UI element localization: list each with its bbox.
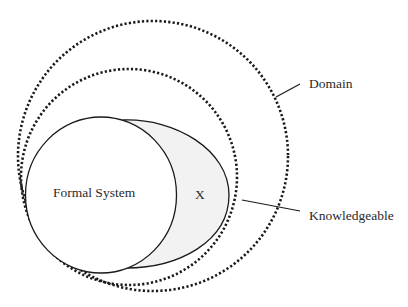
knowledgeable-label: Knowledgeable (309, 208, 394, 223)
diagram-canvas: Formal System X Domain Knowledgeable (0, 0, 408, 307)
set-diagram: Formal System X Domain Knowledgeable (0, 0, 408, 307)
formal-system-label: Formal System (53, 185, 136, 200)
x-region-label: X (195, 187, 205, 202)
domain-leader-line (276, 84, 300, 97)
domain-label: Domain (309, 76, 353, 91)
knowledgeable-leader-line (242, 200, 300, 211)
